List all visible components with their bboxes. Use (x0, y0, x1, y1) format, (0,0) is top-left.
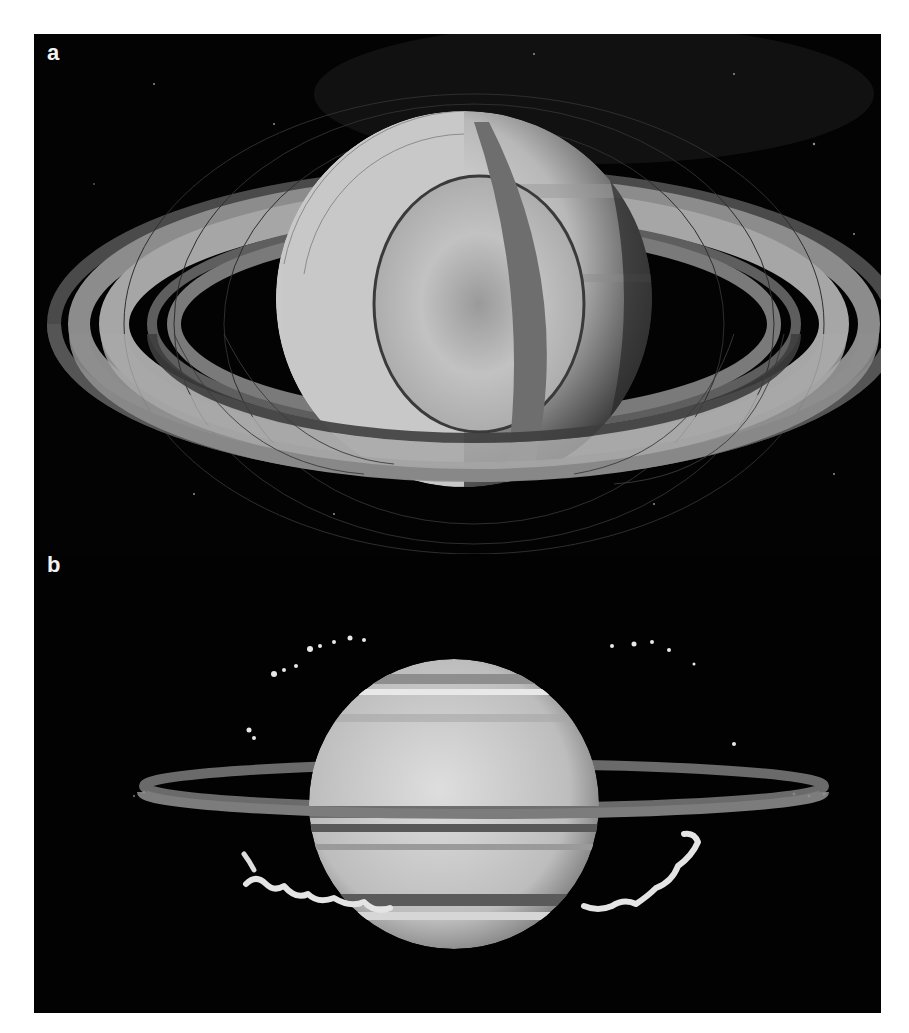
panel-label-b: b (47, 554, 60, 576)
panel-b: b (34, 554, 881, 1013)
figure: a (34, 34, 881, 1013)
saturn-cutaway-illustration (34, 34, 881, 554)
panel-label-a: a (47, 42, 59, 64)
panel-a: a (34, 34, 881, 554)
saturn-aurora-image (34, 554, 881, 1013)
